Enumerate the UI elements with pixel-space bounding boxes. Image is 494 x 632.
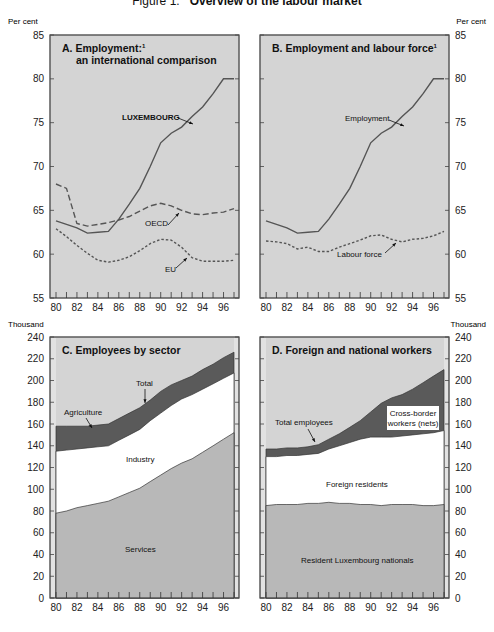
panel-title: D. Foreign and national workers xyxy=(272,344,432,356)
y-tick-label: 65 xyxy=(33,205,45,216)
x-tick-label: 82 xyxy=(71,602,83,613)
y-tick-label: 140 xyxy=(455,440,472,451)
x-tick-label: 90 xyxy=(155,302,167,313)
y-tick-label: 140 xyxy=(27,440,44,451)
x-tick-label: 92 xyxy=(176,302,188,313)
x-tick-label: 86 xyxy=(323,602,335,613)
x-tick-label: 96 xyxy=(218,302,230,313)
x-tick-label: 86 xyxy=(323,302,335,313)
y-tick-label: 20 xyxy=(455,571,467,582)
panel-c-by-sector: 0204060801001201401601802002202408082848… xyxy=(27,332,239,614)
y-tick-label: 100 xyxy=(27,484,44,495)
x-tick-label: 82 xyxy=(281,602,293,613)
y-tick-label: 40 xyxy=(455,549,467,560)
annotation-label: Total employees xyxy=(275,418,333,427)
y-tick-label: 0 xyxy=(455,593,461,604)
x-tick-label: 96 xyxy=(428,602,440,613)
y-tick-label: 85 xyxy=(455,30,467,41)
x-tick-label: 94 xyxy=(197,302,209,313)
y-tick-label: 240 xyxy=(27,332,44,343)
plot-area xyxy=(50,35,239,298)
panel-b-labour-force: 55606570758085808284868890929496B. Emplo… xyxy=(260,30,467,314)
panel-d-foreign-national: 0204060801001201401601802002202408082848… xyxy=(260,332,472,614)
y-tick-label: 80 xyxy=(455,73,467,84)
annotation-label: Labour force xyxy=(337,250,382,259)
x-tick-label: 86 xyxy=(113,602,125,613)
x-tick-label: 86 xyxy=(113,302,125,313)
annotation-label: Agriculture xyxy=(64,408,103,417)
x-tick-label: 90 xyxy=(365,602,377,613)
annotation-label: OECD xyxy=(145,219,168,228)
y-tick-label: 160 xyxy=(27,419,44,430)
y-tick-label: 240 xyxy=(455,332,472,343)
figure-canvas: Per centPer centThousandThousand55606570… xyxy=(0,0,494,632)
y-tick-label: 60 xyxy=(455,249,467,260)
y-tick-label: 70 xyxy=(33,161,45,172)
y-tick-label: 55 xyxy=(33,293,45,304)
y-tick-label: 60 xyxy=(33,527,45,538)
annotation-label: Employment xyxy=(345,114,390,123)
x-tick-label: 80 xyxy=(50,602,62,613)
y-tick-label: 40 xyxy=(33,549,45,560)
y-tick-label: 0 xyxy=(38,593,44,604)
x-tick-label: 92 xyxy=(386,602,398,613)
y-unit-bottom-right: Thousand xyxy=(450,320,486,329)
x-tick-label: 82 xyxy=(281,302,293,313)
y-tick-label: 80 xyxy=(33,506,45,517)
y-tick-label: 65 xyxy=(455,205,467,216)
y-tick-label: 75 xyxy=(455,117,467,128)
annotation-label: Services xyxy=(125,545,156,554)
x-tick-label: 96 xyxy=(218,602,230,613)
y-tick-label: 80 xyxy=(455,506,467,517)
y-tick-label: 75 xyxy=(33,117,45,128)
x-tick-label: 92 xyxy=(176,602,188,613)
annotation-label: Foreign residents xyxy=(326,480,388,489)
annotation-label: Total xyxy=(136,379,153,388)
y-tick-label: 100 xyxy=(455,484,472,495)
y-tick-label: 120 xyxy=(455,462,472,473)
x-tick-label: 84 xyxy=(92,302,104,313)
y-tick-label: 180 xyxy=(27,397,44,408)
x-tick-label: 84 xyxy=(92,602,104,613)
y-unit-top-right: Per cent xyxy=(456,17,487,26)
x-tick-label: 84 xyxy=(302,602,314,613)
y-unit-bottom-left: Thousand xyxy=(8,320,44,329)
x-tick-label: 94 xyxy=(407,602,419,613)
x-tick-label: 94 xyxy=(407,302,419,313)
panel-title: B. Employment and labour force1 xyxy=(272,42,438,54)
y-tick-label: 60 xyxy=(455,527,467,538)
y-tick-label: 200 xyxy=(455,375,472,386)
panel-title: C. Employees by sector xyxy=(62,344,180,356)
panel-a-employment: 55606570758085808284868890929496A. Emplo… xyxy=(33,30,239,314)
x-tick-label: 88 xyxy=(134,602,146,613)
y-unit-top-left: Per cent xyxy=(8,17,39,26)
x-tick-label: 90 xyxy=(155,602,167,613)
x-tick-label: 82 xyxy=(71,302,83,313)
y-tick-label: 60 xyxy=(33,249,45,260)
x-tick-label: 80 xyxy=(260,302,272,313)
annotation-label: EU xyxy=(165,265,176,274)
y-tick-label: 120 xyxy=(27,462,44,473)
x-tick-label: 90 xyxy=(365,302,377,313)
area-resident-luxembourg-nationals xyxy=(266,502,444,598)
y-tick-label: 220 xyxy=(27,353,44,364)
x-tick-label: 92 xyxy=(386,302,398,313)
annotation-label: Cross-borderworkers (nets) xyxy=(387,409,439,428)
annotation-label: Resident Luxembourg nationals xyxy=(301,556,414,565)
y-tick-label: 200 xyxy=(27,375,44,386)
annotation-label: Industry xyxy=(126,455,154,464)
y-tick-label: 220 xyxy=(455,353,472,364)
x-tick-label: 88 xyxy=(344,302,356,313)
y-tick-label: 20 xyxy=(33,571,45,582)
x-tick-label: 88 xyxy=(344,602,356,613)
x-tick-label: 94 xyxy=(197,602,209,613)
y-tick-label: 160 xyxy=(455,419,472,430)
x-tick-label: 88 xyxy=(134,302,146,313)
y-tick-label: 85 xyxy=(33,30,45,41)
y-tick-label: 70 xyxy=(455,161,467,172)
x-tick-label: 84 xyxy=(302,302,314,313)
x-tick-label: 96 xyxy=(428,302,440,313)
x-tick-label: 80 xyxy=(50,302,62,313)
y-tick-label: 180 xyxy=(455,397,472,408)
annotation-label: LUXEMBOURG xyxy=(122,113,180,122)
